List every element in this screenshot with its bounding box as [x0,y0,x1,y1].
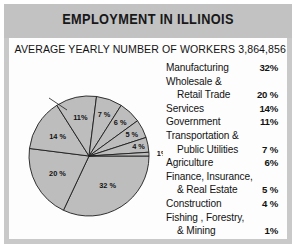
legend-label: Agriculture [166,157,213,168]
legend-label: Construction [166,198,221,209]
legend-row: & Real Estate5 % [161,184,283,198]
legend-percent: 20 % [257,89,278,100]
pie-slice-label: 32 % [99,181,116,190]
legend-row: Public Utilities7 % [161,144,283,158]
legend-percent: 1% [265,225,278,236]
legend-row: Manufacturing32% [161,62,283,76]
legend-row: Fishing , Forestry, [161,212,283,226]
legend-row: Transportation & [161,130,283,144]
legend-row: Government11% [161,116,283,130]
legend-percent: 5 % [262,184,278,195]
legend-label: & Mining [177,225,215,236]
legend-percent: 32% [259,62,278,73]
legend-label: Services [166,103,204,114]
legend-label: Transportation & [166,130,239,141]
legend-label: & Real Estate [177,184,237,195]
legend-label: Government [166,116,221,127]
chart-panel: AVERAGE YEARLY NUMBER OF WORKERS 3,864,8… [9,38,287,239]
legend-row: Retail Trade20 % [161,89,283,103]
pie-slice-label: 14 % [49,132,66,141]
legend-row: Construction4 % [161,198,283,212]
legend-row: Finance, Insurance, [161,171,283,185]
legend: Manufacturing32%Wholesale &Retail Trade2… [161,62,283,239]
legend-row: Wholesale & [161,76,283,90]
legend-label: Fishing , Forestry, [166,212,244,223]
chart-card: EMPLOYMENT IN ILLINOIS AVERAGE YEARLY NU… [4,4,292,244]
pie-slice-label: 11% [73,113,88,122]
legend-label: Manufacturing [166,62,229,73]
pie-chart: 32 %20 %14 %11%7 %6 %5 %4 %1% [15,74,163,234]
pie-slices [29,96,149,216]
legend-label: Wholesale & [166,76,222,87]
legend-label: Finance, Insurance, [166,171,253,182]
legend-percent: 11% [260,116,278,127]
pie-slice-label: 5 % [125,130,138,139]
legend-row: Services14% [161,103,283,117]
legend-percent: 6% [265,157,278,168]
pie-svg: 32 %20 %14 %11%7 %6 %5 %4 %1% [15,74,163,234]
pie-slice-label: 20 % [49,169,66,178]
legend-percent: 7 % [262,144,278,155]
page-title: EMPLOYMENT IN ILLINOIS [21,11,274,27]
legend-percent: 14% [259,103,278,114]
legend-percent: 4 % [262,198,278,209]
legend-row: Agriculture6% [161,157,283,171]
legend-row: & Mining1% [161,225,283,239]
chart-subtitle: AVERAGE YEARLY NUMBER OF WORKERS 3,864,8… [15,43,282,55]
legend-label: Public Utilities [177,144,238,155]
pie-slice-label: 6 % [114,118,127,127]
pie-slice-label: 7 % [98,110,111,119]
legend-label: Retail Trade [177,89,230,100]
title-band: EMPLOYMENT IN ILLINOIS [4,4,292,38]
pie-slice-label: 4 % [132,142,145,151]
